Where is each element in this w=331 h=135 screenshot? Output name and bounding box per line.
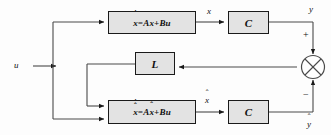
- block-output-gain-bottom-label: C: [245, 106, 253, 118]
- summing-sign-minus: −: [303, 89, 309, 100]
- x-dot-glyph: ̇x: [133, 18, 138, 28]
- observer-rhs-post: +Bu: [154, 107, 171, 117]
- observer-rhs-pre: =A: [138, 107, 150, 117]
- derivative-dot-icon: ̇: [133, 10, 138, 18]
- hat-icon: ˆ: [307, 114, 311, 122]
- plant-rhs: =Ax+Bu: [138, 18, 171, 28]
- block-diagram-canvas: ̇x=Ax+Bu ̇ˆx=Aˆx+Bu C C L u x ˆx y ˆy + …: [0, 0, 331, 135]
- hat-icon: ˆ: [149, 102, 154, 110]
- block-observer-label: ̇ˆx=Aˆx+Bu: [133, 107, 171, 117]
- block-output-gain-top[interactable]: C: [228, 11, 269, 34]
- block-plant-label: ̇x=Ax+Bu: [133, 18, 171, 28]
- plant-lhs-var: x: [133, 18, 138, 28]
- xhat-glyph: ˆx: [149, 107, 154, 117]
- summing-junction-shape: [302, 56, 325, 79]
- block-plant[interactable]: ̇x=Ax+Bu: [108, 11, 196, 34]
- hat-icon: ˆ: [205, 90, 209, 98]
- block-observer-gain-L[interactable]: L: [135, 52, 175, 75]
- summing-sign-plus: +: [303, 29, 309, 40]
- signal-label-y-hat: ˆy: [307, 119, 311, 129]
- block-output-gain-top-label: C: [245, 17, 253, 29]
- block-observer-gain-L-label: L: [152, 58, 159, 70]
- signal-label-x-hat: ˆx: [205, 95, 209, 105]
- signal-label-x: x: [207, 6, 211, 16]
- block-observer[interactable]: ̇ˆx=Aˆx+Bu: [108, 100, 196, 124]
- xhat-dot-glyph: ̇ˆx: [133, 107, 138, 117]
- signal-label-y: y: [309, 4, 313, 14]
- block-output-gain-bottom[interactable]: C: [228, 100, 269, 124]
- hat-icon: ˆ: [133, 103, 138, 111]
- signal-label-u: u: [14, 60, 19, 70]
